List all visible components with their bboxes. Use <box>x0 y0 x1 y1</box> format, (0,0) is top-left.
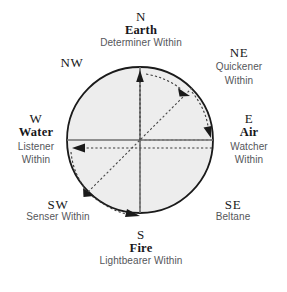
cardinal-sw: SW <box>6 198 110 212</box>
within-w-line1: Listener <box>2 140 70 154</box>
diagram-canvas: N Earth Determiner Within NE Quickener W… <box>0 0 287 292</box>
cardinal-n: N <box>86 10 196 24</box>
label-group-e: E Air Watcher Within <box>214 112 284 167</box>
within-e-line2: Within <box>214 153 284 167</box>
within-e-line1: Watcher <box>214 140 284 154</box>
label-group-ne: NE Quickener Within <box>196 46 282 87</box>
within-n: Determiner Within <box>86 38 196 49</box>
label-group-se: SE Beltane <box>190 198 276 223</box>
within-se: Beltane <box>190 212 276 223</box>
within-ne-line2: Within <box>196 74 282 88</box>
label-group-nw: NW <box>38 56 106 70</box>
element-e: Air <box>214 126 284 140</box>
cardinal-s: S <box>86 228 196 242</box>
cardinal-ne: NE <box>196 46 282 60</box>
within-s: Lightbearer Within <box>86 256 196 267</box>
cardinal-w: W <box>2 112 70 126</box>
element-n: Earth <box>86 24 196 38</box>
label-group-sw: SW Senser Within <box>6 198 110 223</box>
within-sw: Senser Within <box>6 212 110 223</box>
label-group-n: N Earth Determiner Within <box>86 10 196 48</box>
cardinal-nw: NW <box>38 56 106 70</box>
cardinal-e: E <box>214 112 284 126</box>
within-w-line2: Within <box>2 153 70 167</box>
label-group-s: S Fire Lightbearer Within <box>86 228 196 266</box>
within-ne-line1: Quickener <box>196 60 282 74</box>
element-s: Fire <box>86 242 196 256</box>
label-group-w: W Water Listener Within <box>2 112 70 167</box>
cardinal-se: SE <box>190 198 276 212</box>
element-w: Water <box>2 126 70 140</box>
